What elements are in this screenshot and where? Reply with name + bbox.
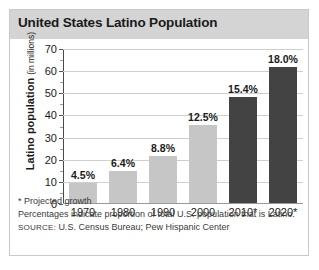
y-tick-mark xyxy=(59,182,63,183)
bar: 15.4%2010* xyxy=(229,97,257,203)
bar-value-label: 8.8% xyxy=(151,142,175,154)
y-tick-mark xyxy=(59,160,63,161)
y-axis-line xyxy=(63,49,64,204)
y-tick-label: 60 xyxy=(45,65,57,77)
gridline xyxy=(63,138,303,139)
y-tick-mark xyxy=(59,71,63,72)
y-tick-label: 20 xyxy=(45,154,57,166)
y-tick-mark xyxy=(59,115,63,116)
y-tick-mark-minor xyxy=(60,82,63,83)
y-tick-label: 50 xyxy=(45,87,57,99)
gridline xyxy=(63,160,303,161)
gridline xyxy=(63,49,303,50)
y-tick-label: 40 xyxy=(45,109,57,121)
footnote-projected: * Projected growth xyxy=(18,195,303,208)
footnote-percent: Percentages indicate proportion of total… xyxy=(18,208,303,221)
bar-value-label: 4.5% xyxy=(71,169,95,181)
footnote-source: SOURCE: U.S. Census Bureau; Pew Hispanic… xyxy=(18,221,303,234)
bar-value-label: 6.4% xyxy=(111,157,135,169)
y-tick-mark xyxy=(59,138,63,139)
y-tick-mark-minor xyxy=(60,60,63,61)
y-axis-title-main: Latino population xyxy=(24,78,36,170)
chart-figure: United States Latino Population Latino p… xyxy=(9,9,309,256)
page-title: United States Latino Population xyxy=(18,15,217,30)
bar-value-label: 18.0% xyxy=(268,53,298,65)
y-tick-label: 70 xyxy=(45,43,57,55)
y-tick-mark xyxy=(59,93,63,94)
y-axis-title: Latino population (in millions) xyxy=(24,21,36,181)
bar-value-label: 12.5% xyxy=(188,111,218,123)
y-axis-title-unit: (in millions) xyxy=(26,32,36,75)
y-tick-mark-minor xyxy=(60,193,63,194)
bar: 18.0%2020* xyxy=(269,67,297,203)
source-text: U.S. Census Bureau; Pew Hispanic Center xyxy=(58,222,229,232)
chart-header-band: United States Latino Population xyxy=(10,10,308,39)
plot-area: 010203040506070 4.5%19706.4%19808.8%1990… xyxy=(63,49,303,204)
gridline xyxy=(63,93,303,94)
y-tick-mark xyxy=(59,49,63,50)
y-tick-label: 30 xyxy=(45,132,57,144)
y-tick-label: 10 xyxy=(45,176,57,188)
bar-value-label: 15.4% xyxy=(228,83,258,95)
bar: 12.5%2000 xyxy=(189,125,217,203)
footnotes: * Projected growth Percentages indicate … xyxy=(18,195,303,234)
source-label: SOURCE: xyxy=(18,223,56,232)
y-tick-mark-minor xyxy=(60,127,63,128)
y-tick-mark-minor xyxy=(60,171,63,172)
gridline xyxy=(63,182,303,183)
gridline xyxy=(63,71,303,72)
gridline xyxy=(63,115,303,116)
y-tick-mark-minor xyxy=(60,104,63,105)
y-tick-mark-minor xyxy=(60,149,63,150)
